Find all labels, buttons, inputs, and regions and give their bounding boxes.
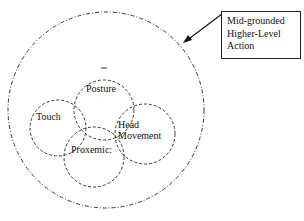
- touch-label: Touch: [36, 111, 61, 122]
- callout-box: Mid-grounded Higher-Level Action: [221, 11, 301, 59]
- callout-line-1: Mid-grounded: [227, 15, 300, 28]
- head-movement-label-line1: Head: [118, 119, 161, 130]
- outer-circle: [8, 12, 204, 208]
- callout-line-2: Higher-Level: [227, 28, 300, 41]
- head-movement-label-line2: Movement: [118, 130, 161, 141]
- callout-line-3: Action: [227, 40, 300, 53]
- posture-label: Posture: [86, 83, 116, 94]
- proxemics-label: Proxemic:: [71, 144, 112, 155]
- arrow-head-icon: [183, 35, 192, 43]
- callout-arrow: [186, 14, 222, 41]
- head-movement-label: Head Movement: [118, 119, 161, 141]
